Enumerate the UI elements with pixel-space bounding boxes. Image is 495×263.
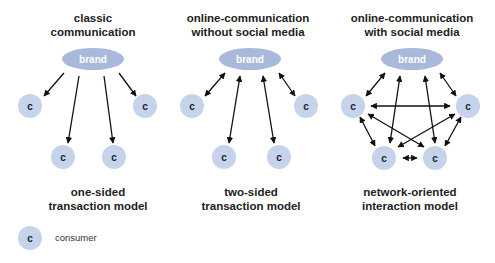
consumer-node: c xyxy=(423,146,447,170)
consumer-node: c xyxy=(180,94,204,118)
diagram-1-caption-line1: one-sided xyxy=(18,185,178,199)
consumer-node: c xyxy=(51,145,75,169)
svg-text:c: c xyxy=(381,153,387,164)
svg-text:c: c xyxy=(142,101,148,112)
consumer-node: c xyxy=(18,94,42,118)
diagram-1: brand c c c c xyxy=(18,48,157,169)
diagram-1-caption: one-sided transaction model xyxy=(18,185,178,213)
svg-text:c: c xyxy=(465,101,471,112)
consumer-node: c xyxy=(456,94,480,118)
svg-text:c: c xyxy=(27,233,33,244)
diagram-2: brand c c c c xyxy=(180,48,318,169)
consumer-node: c xyxy=(294,94,318,118)
svg-text:c: c xyxy=(350,101,356,112)
svg-text:c: c xyxy=(27,101,33,112)
diagram-2-caption-line1: two-sided xyxy=(171,185,331,199)
diagram-3-caption-line1: network-oriented xyxy=(330,185,490,199)
svg-text:c: c xyxy=(189,101,195,112)
consumer-node: c xyxy=(133,94,157,118)
diagram-3-caption: network-oriented interaction model xyxy=(330,185,490,213)
diagram-2-arrows xyxy=(205,73,295,143)
svg-text:c: c xyxy=(111,152,117,163)
diagram-1-caption-line2: transaction model xyxy=(18,199,178,213)
svg-text:c: c xyxy=(60,152,66,163)
svg-text:c: c xyxy=(221,152,227,163)
diagram-3-arrows xyxy=(360,73,461,158)
diagram-3: brand c c c c xyxy=(341,48,480,170)
diagram-2-caption: two-sided transaction model xyxy=(171,185,331,213)
diagram-2-caption-line2: transaction model xyxy=(171,199,331,213)
consumer-node: c xyxy=(212,145,236,169)
svg-text:c: c xyxy=(432,153,438,164)
brand-label: brand xyxy=(79,54,107,65)
brand-label: brand xyxy=(236,54,264,65)
legend-consumer-label: consumer xyxy=(55,232,97,243)
consumer-node: c xyxy=(102,145,126,169)
legend-consumer-symbol: c xyxy=(18,226,42,250)
consumer-node: c xyxy=(267,145,291,169)
consumer-node: c xyxy=(372,146,396,170)
svg-text:c: c xyxy=(303,101,309,112)
consumer-node: c xyxy=(341,94,365,118)
diagram-1-arrows xyxy=(44,73,136,143)
diagram-canvas: brand c c c c brand c xyxy=(0,0,495,263)
svg-text:c: c xyxy=(276,152,282,163)
brand-label: brand xyxy=(398,54,426,65)
diagram-3-caption-line2: interaction model xyxy=(330,199,490,213)
